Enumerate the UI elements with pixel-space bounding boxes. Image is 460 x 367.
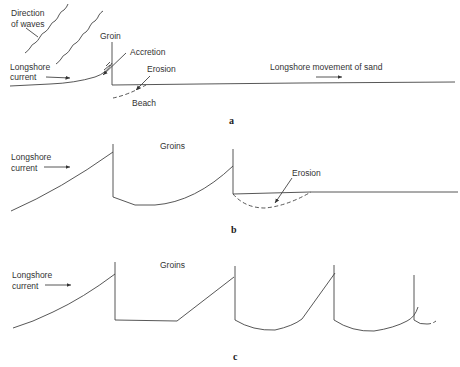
panel-a: Direction of waves Groin Accretion Erosi… <box>10 4 455 126</box>
erosion-label-a: Erosion <box>147 64 176 74</box>
direction-of-waves-label: Direction <box>11 8 45 18</box>
groin-diagram: Direction of waves Groin Accretion Erosi… <box>0 0 460 367</box>
accretion-label: Accretion <box>130 47 166 57</box>
shoreline-c-2 <box>115 277 234 321</box>
beach-label: Beach <box>132 98 156 108</box>
longshore-current-label-b: Longshore <box>11 152 51 162</box>
shoreline-c-4 <box>334 307 418 331</box>
shoreline-c-5-dash <box>427 321 436 324</box>
panel-label-a: a <box>229 115 234 126</box>
panel-label-b: b <box>231 224 237 235</box>
shoreline-c-3 <box>235 273 335 330</box>
direction-of-waves-label-2: of waves <box>11 19 45 29</box>
groins-label-c: Groins <box>160 260 185 270</box>
longshore-current-label-a: Longshore <box>10 62 50 72</box>
longshore-current-label-b-2: current <box>11 163 38 173</box>
shoreline-b-3 <box>233 192 458 194</box>
wave-crest-line-2 <box>56 11 103 64</box>
erosion-label-b: Erosion <box>292 168 321 178</box>
longshore-movement-label: Longshore movement of sand <box>270 62 383 72</box>
shoreline-downdrift <box>112 82 455 85</box>
groins-label-b: Groins <box>160 141 185 151</box>
erosion-dashed-curve-b <box>233 192 311 208</box>
longshore-current-label-a-2: current <box>10 72 37 82</box>
shoreline-b-2 <box>113 166 233 205</box>
longshore-current-arrow-a <box>46 77 70 78</box>
waves-leader-line <box>26 28 38 37</box>
erosion-leader-b <box>275 178 292 203</box>
longshore-current-label-c: Longshore <box>12 270 52 280</box>
erosion-dashed-curve-a <box>113 85 146 98</box>
panel-b: Groins Erosion Longshore current b <box>11 141 458 235</box>
panel-label-c: c <box>233 351 238 362</box>
panel-c: Groins Longshore current c <box>12 260 436 362</box>
erosion-leader-a <box>136 76 150 90</box>
accretion-leader <box>103 53 126 75</box>
longshore-current-label-c-2: current <box>12 281 39 291</box>
shoreline-c-5 <box>414 320 427 324</box>
groin-label: Groin <box>100 31 121 41</box>
